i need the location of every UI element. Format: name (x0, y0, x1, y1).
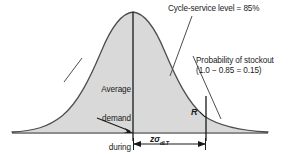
average-demand-line-1: Average (85, 85, 131, 95)
safety-stock-dimension (133, 138, 206, 150)
average-demand-upper-leader-line (64, 58, 82, 82)
cycle-service-level-diagram: Cycle-service level = 85% Probability of… (0, 0, 290, 156)
safety-stock-subscript: dLT (160, 140, 169, 146)
reorder-point-label: R (191, 108, 197, 118)
cycle-service-leader-line (170, 16, 192, 76)
safety-stock-symbol: zσ (150, 134, 160, 144)
safety-stock-label: zσdLT (150, 135, 169, 148)
stockout-label-line-1: Probability of stockout (196, 56, 274, 65)
average-demand-line-2: demand (85, 114, 131, 124)
average-demand-label: Average demand during lead time (85, 66, 131, 156)
average-demand-line-3: during (85, 143, 131, 153)
stockout-label-line-2: (1.0 − 0.85 = 0.15) (196, 66, 274, 76)
cycle-service-level-label: Cycle-service level = 85% (168, 4, 259, 14)
diagram-canvas (0, 0, 290, 156)
probability-of-stockout-label: Probability of stockout(1.0 − 0.85 = 0.1… (196, 56, 274, 75)
